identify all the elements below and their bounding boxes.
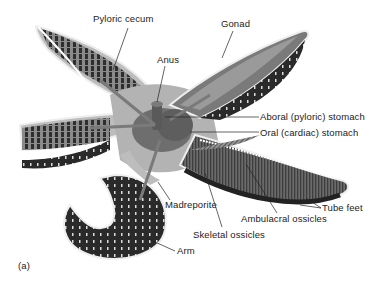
label-arm: Arm	[177, 246, 195, 256]
label-tube-feet: Tube feet	[322, 203, 363, 213]
label-skeletal-ossicles: Skeletal ossicles	[193, 230, 265, 240]
label-madreporite: Madreporite	[165, 200, 217, 210]
sea-star-illustration	[0, 0, 383, 281]
label-ambulacral-ossicles: Ambulacral ossicles	[241, 214, 327, 224]
sea-star-diagram: Pyloric cecum Gonad Anus Aboral (pyloric…	[0, 0, 383, 281]
lower-right-arm	[180, 135, 348, 202]
label-pyloric-cecum: Pyloric cecum	[93, 14, 153, 24]
panel-label: (a)	[18, 261, 30, 271]
label-aboral-stomach: Aboral (pyloric) stomach	[260, 112, 365, 122]
label-gonad: Gonad	[221, 19, 250, 29]
label-anus: Anus	[157, 55, 179, 65]
label-oral-stomach: Oral (cardiac) stomach	[260, 128, 358, 138]
